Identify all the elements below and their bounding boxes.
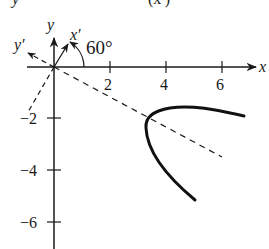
angle-arc (70, 42, 84, 67)
x-tick-4: 4 (160, 76, 168, 93)
x-ticks: 2 4 6 (104, 61, 224, 93)
rotated-conic-diagram: y (x′) x y 2 4 6 −2 −4 −6 x′ y′ 60° (0, 0, 269, 249)
cropped-text-right: (x′) (148, 0, 170, 8)
y-tick-neg2: −2 (20, 110, 37, 127)
rotated-x-label: x′ (69, 26, 81, 43)
rotated-y-label: y′ (12, 36, 25, 54)
parabola-curve (146, 107, 244, 200)
rotated-x-axis-arrow (54, 44, 68, 67)
cropped-text-left: y (10, 0, 20, 8)
x-tick-2: 2 (104, 76, 112, 93)
y-tick-neg4: −4 (20, 162, 37, 179)
y-ticks: −2 −4 −6 (20, 110, 61, 231)
x-tick-6: 6 (216, 76, 224, 93)
angle-label: 60° (86, 37, 113, 58)
y-axis-label: y (45, 16, 55, 34)
rotated-y-axis (28, 53, 54, 67)
symmetry-axis-dashed (54, 67, 222, 157)
rotated-x-axis-dashed-extension (28, 67, 54, 112)
x-axis-label: x (258, 58, 266, 75)
y-tick-neg6: −6 (20, 214, 37, 231)
